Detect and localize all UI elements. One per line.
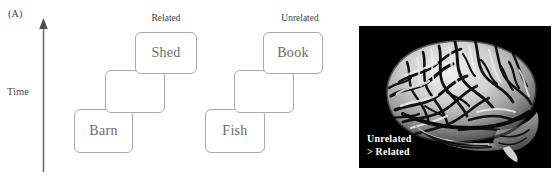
brain-overlay-caption: Unrelated > Related — [367, 133, 411, 158]
panel-b: (B) — [355, 0, 556, 180]
card-label-book: Book — [264, 45, 322, 61]
card-label-fish: Fish — [206, 123, 264, 139]
brain-overlay-caption-line2: > Related — [367, 146, 411, 159]
card-related-top: Shed — [135, 32, 197, 74]
group-caption-unrelated: Unrelated — [262, 13, 338, 23]
card-unrelated-middle — [234, 70, 294, 113]
time-axis-arrow — [38, 18, 49, 172]
brain-image-frame: Unrelated > Related — [359, 26, 551, 168]
card-related-bottom: Barn — [74, 109, 133, 153]
brain-overlay-caption-line1: Unrelated — [367, 133, 411, 146]
time-axis-label: Time — [7, 86, 29, 97]
panel-a-letter: (A) — [8, 8, 22, 19]
card-unrelated-top: Book — [263, 32, 323, 74]
figure-container: (A) Time Related Unrelated Barn Shed Fis… — [0, 0, 556, 180]
card-label-barn: Barn — [75, 123, 132, 139]
card-unrelated-bottom: Fish — [205, 109, 265, 153]
group-caption-related: Related — [133, 13, 199, 23]
panel-a: (A) Time Related Unrelated Barn Shed Fis… — [0, 0, 355, 180]
card-related-middle — [105, 70, 165, 113]
card-label-shed: Shed — [136, 45, 196, 61]
